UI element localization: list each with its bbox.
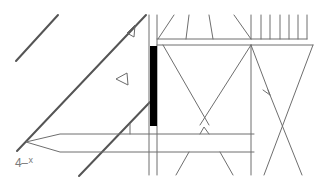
brace-left-b bbox=[200, 45, 251, 125]
brace-left-a bbox=[163, 45, 209, 125]
strut-2 bbox=[186, 15, 189, 39]
technical-drawing bbox=[0, 0, 327, 189]
pointed-member bbox=[26, 134, 254, 152]
brace-right-b bbox=[264, 45, 313, 175]
drawing-label: 4–x bbox=[15, 155, 32, 170]
diagonal-line-2 bbox=[17, 15, 146, 151]
diagonal-line-1 bbox=[16, 15, 58, 61]
black-bar bbox=[150, 46, 157, 126]
brace-lower-left bbox=[176, 152, 189, 175]
strut-3 bbox=[209, 15, 213, 39]
strut-4 bbox=[234, 15, 251, 39]
label-dash: – bbox=[21, 156, 27, 170]
strut-1 bbox=[158, 15, 174, 39]
brace-center-right bbox=[251, 45, 270, 95]
diagonal-line-3 bbox=[79, 102, 150, 176]
brace-knee bbox=[200, 127, 209, 134]
label-superscript: x bbox=[28, 155, 32, 165]
brace-right-a bbox=[268, 90, 302, 175]
brace-lower-right bbox=[220, 152, 233, 175]
triangle-marker-2 bbox=[116, 73, 128, 85]
